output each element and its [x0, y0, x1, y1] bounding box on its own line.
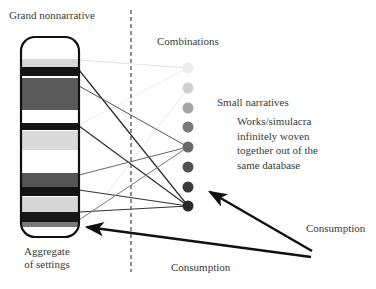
combination-dot [183, 142, 194, 153]
combination-dot [183, 201, 194, 212]
works-description-line: Works/simulacra [237, 114, 318, 129]
consumption-arrow-upper [210, 192, 312, 251]
setting-band [21, 78, 79, 110]
consumption-arrows [87, 192, 312, 257]
consumption-label-lower: Consumption [171, 261, 230, 274]
connection-line [79, 190, 188, 206]
consumption-label-upper: Consumption [306, 222, 365, 235]
aggregate-line: of settings [24, 258, 70, 271]
combination-dot [183, 162, 194, 173]
combination-dot [183, 182, 194, 193]
setting-band [21, 197, 79, 212]
combination-dot [183, 63, 194, 74]
database-column [21, 37, 79, 237]
setting-band [21, 67, 79, 76]
setting-band [21, 173, 79, 187]
combination-dot [183, 103, 194, 114]
setting-band [21, 123, 79, 130]
connection-line [79, 60, 188, 68]
grand-nonnarrative-label: Grand nonnarrative [9, 9, 95, 22]
settings-bands [21, 59, 79, 227]
setting-band [21, 131, 79, 150]
combination-dot [183, 122, 194, 133]
aggregate-line: Aggregate [24, 245, 70, 258]
works-description-line: together out of the [237, 143, 318, 158]
connection-lines [79, 60, 188, 230]
connection-line [79, 147, 188, 175]
aggregate-of-settings-label: Aggregate of settings [24, 245, 70, 271]
works-description: Works/simulacra infinitely woven togethe… [237, 114, 318, 172]
setting-band [21, 59, 79, 67]
small-narratives-label: Small narratives [217, 96, 289, 109]
setting-band [21, 187, 79, 196]
setting-band [21, 222, 79, 227]
setting-band [21, 212, 79, 222]
combination-dots [183, 63, 194, 212]
works-description-line: same database [237, 158, 318, 173]
works-description-line: infinitely woven [237, 129, 318, 144]
combination-dot [183, 83, 194, 94]
combinations-label: Combinations [157, 35, 219, 48]
